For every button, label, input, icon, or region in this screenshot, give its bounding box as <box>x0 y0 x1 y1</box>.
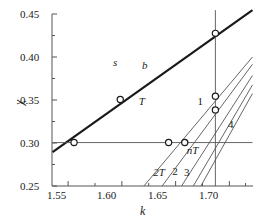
data-point-marker <box>117 96 123 102</box>
plot-annotation-nT: nT <box>187 144 199 156</box>
data-point-marker <box>71 139 77 145</box>
y-tick-label-0.40: 0.40 <box>20 51 39 63</box>
x-tick-label-1.70: 1.70 <box>199 189 218 201</box>
data-point-marker <box>212 107 218 113</box>
y-axis-title: χ <box>12 100 27 105</box>
axis-spines <box>52 14 253 186</box>
plot-annotation-2: 2 <box>172 165 178 177</box>
data-point-marker <box>166 139 172 145</box>
data-point-marker <box>212 93 218 99</box>
x-tick-label-1.55: 1.55 <box>47 189 66 201</box>
plot-annotation-T: T <box>139 95 145 107</box>
plot-annotation-3: 3 <box>184 166 190 178</box>
series-group <box>53 10 253 186</box>
data-point-marker <box>212 30 218 36</box>
series-line-b <box>53 10 253 152</box>
plot-annotation-s: s <box>113 56 117 68</box>
x-tick-label-1.65: 1.65 <box>148 189 167 201</box>
plot-annotation-1: 1 <box>197 95 203 107</box>
y-tick-label-0.25: 0.25 <box>20 180 39 192</box>
chart-figure: 0.45 0.40 0.35 0.30 0.25 1.55 1.60 1.65 … <box>0 0 264 221</box>
axis-group <box>52 14 253 186</box>
x-tick-label-1.60: 1.60 <box>97 189 116 201</box>
plot-annotation-2T: 2T <box>153 166 165 178</box>
x-axis-title: k <box>140 204 145 219</box>
plot-annotation-4: 4 <box>228 118 234 130</box>
plot-annotation-b: b <box>142 59 148 71</box>
plot-canvas <box>0 0 264 221</box>
series-line-4b <box>201 94 253 186</box>
series-line-3 <box>182 75 253 186</box>
y-tick-label-0.30: 0.30 <box>20 137 39 149</box>
y-tick-label-0.45: 0.45 <box>20 8 39 20</box>
